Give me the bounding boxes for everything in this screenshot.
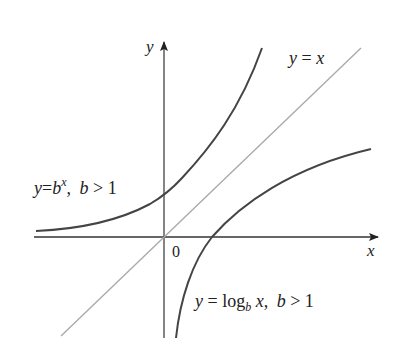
y-axis-label: y: [144, 37, 154, 56]
origin-label: 0: [172, 243, 180, 260]
function-graph: y x 0 y = x y=bx, b > 1 y = logb x, b > …: [0, 0, 409, 358]
x-axis-label: x: [366, 241, 375, 260]
identity-label: y = x: [287, 48, 324, 68]
exponential-label: y=bx, b > 1: [32, 175, 117, 198]
logarithm-label: y = logb x, b > 1: [193, 291, 314, 314]
exponential-curve: [36, 48, 262, 231]
